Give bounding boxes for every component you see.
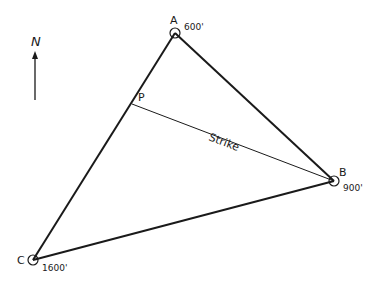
label-b: B [339,166,347,179]
elevation-b: 900' [343,183,363,193]
edge-ab [175,33,334,181]
strike-label: Strike [207,131,241,154]
label-a: A [170,14,178,27]
edge-ca [33,33,175,260]
label-p: P [138,91,145,104]
edge-bc [33,181,334,260]
label-c: C [17,254,25,267]
diagram-canvas: N A 600' B 900' C 1600' P Strike [0,0,383,282]
north-label: N [31,34,41,49]
elevation-a: 600' [184,22,204,32]
north-arrow-icon [32,51,38,100]
elevation-c: 1600' [42,263,67,273]
